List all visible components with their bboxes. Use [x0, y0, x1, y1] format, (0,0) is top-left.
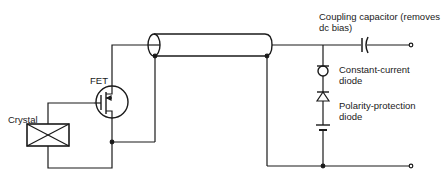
crystal-label: Crystal — [8, 114, 38, 125]
supply-branch — [316, 45, 330, 168]
crystal-wires — [48, 103, 112, 168]
coupling-capacitor-label-line1: Coupling capacitor (removes — [319, 11, 440, 22]
fet-label: FET — [90, 75, 108, 86]
coaxial-cable — [148, 34, 272, 142]
polarity-protection-diode-label-line2: diode — [339, 111, 362, 122]
fet-symbol — [94, 86, 128, 118]
fet-wires — [110, 45, 155, 144]
polarity-protection-diode-label-line1: Polarity-protection — [339, 100, 416, 111]
circuit-schematic — [0, 0, 442, 178]
coupling-capacitor-label-line2: dc bias) — [319, 22, 352, 33]
constant-current-diode-label-line1: Constant-current — [339, 64, 410, 75]
constant-current-diode-label-line2: diode — [339, 75, 362, 86]
crystal-symbol — [27, 124, 69, 146]
